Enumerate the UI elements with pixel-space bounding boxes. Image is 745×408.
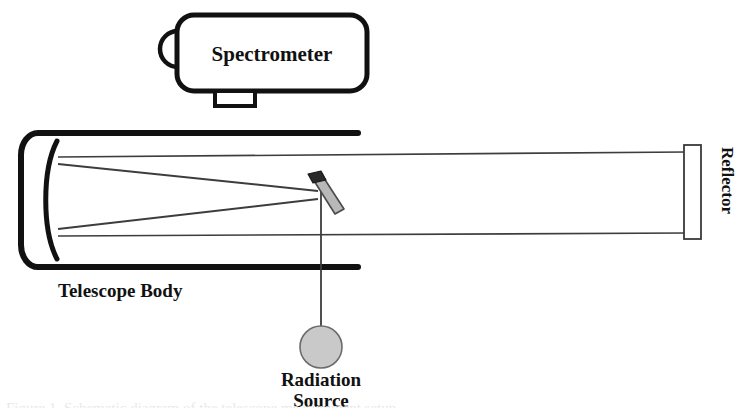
reflector-label: Reflector [718,147,737,214]
upper-converging-ray [58,164,318,191]
telescope-body-label: Telescope Body [58,280,183,301]
diagonal-mirror-tip [308,171,326,183]
spectrometer-foot [215,91,255,106]
spectrometer-component[interactable]: Spectrometer [160,15,367,106]
lower-converging-ray [58,199,318,229]
telescope-body-component[interactable]: Telescope Body [21,133,358,301]
optical-diagram: Spectrometer Telescope Body [0,0,745,408]
primary-mirror-icon [46,141,57,259]
figure-caption-text: Figure 1. Schematic diagram of the teles… [0,399,745,408]
figure-caption-clipped: Figure 1. Schematic diagram of the teles… [0,399,745,408]
reflector-component[interactable]: Reflector [684,145,737,239]
radiation-source-icon [300,326,342,368]
spectrometer-label: Spectrometer [212,42,333,66]
upper-horizontal-ray [58,152,686,157]
diagonal-mirror-component[interactable] [308,171,344,214]
reflector-plate [684,145,701,239]
figure-root: Spectrometer Telescope Body [0,0,745,408]
radiation-source-component[interactable]: Radiation Source [281,326,362,408]
lower-horizontal-ray [58,233,686,236]
radiation-source-label-line1: Radiation [281,369,362,390]
